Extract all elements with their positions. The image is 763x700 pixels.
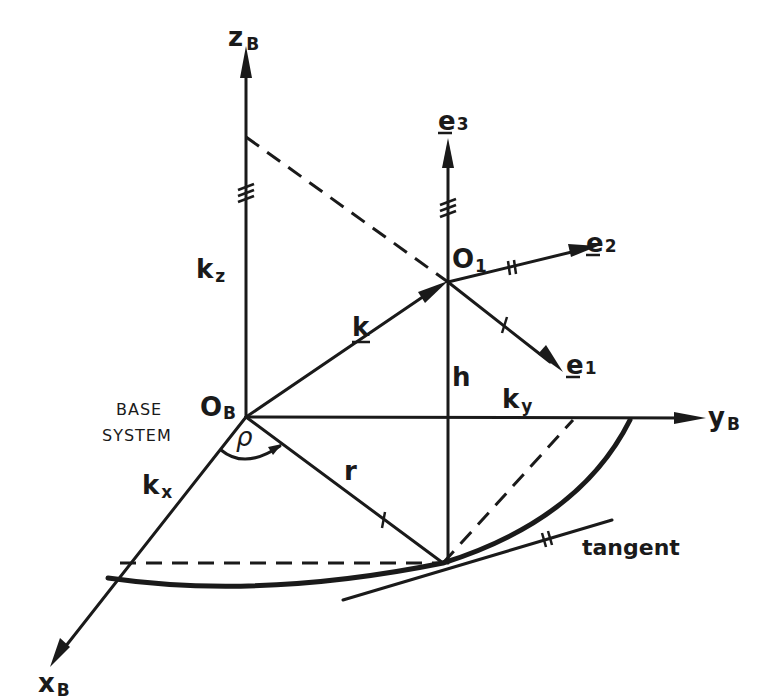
h-label: h [452,362,471,392]
coordinate-diagram: zB yB xB OB BASE SYSTEM kz k [0,0,763,700]
e2-label: e2 [586,228,616,258]
y-axis-base [246,412,706,424]
base-system-label-line2: SYSTEM [102,426,172,445]
vector-k-label: k [352,312,370,342]
y-axis-label: yB [708,402,740,434]
dashed-projection-z [246,137,448,282]
origin-base-label: OB [200,392,236,423]
kx-label: kx [142,470,172,502]
r-label: r [344,456,357,486]
kz-label: kz [196,254,225,286]
dashed-projection-y [443,420,573,563]
tangent-label: tangent [582,535,680,560]
ky-label: ky [502,384,532,416]
radius-r [246,417,443,563]
origin-local-label: O1 [452,244,487,276]
e3-axis [440,138,456,563]
x-axis-label: xB [38,668,70,700]
e1-axis [448,282,563,372]
vector-k [246,281,448,417]
e1-label: e1 [566,350,596,380]
base-system-label-line1: BASE [116,400,162,419]
tangent-line [343,520,612,600]
rho-label: ρ [236,422,253,452]
x-axis-base [50,417,246,667]
z-axis-base [238,46,254,417]
z-axis-label: zB [228,22,259,54]
e3-label: e3 [438,106,468,136]
